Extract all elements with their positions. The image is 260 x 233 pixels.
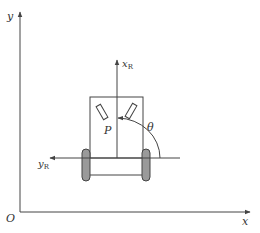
robot-y-label: yR bbox=[37, 158, 50, 171]
left-wheel-icon bbox=[82, 149, 90, 181]
theta-label: θ bbox=[147, 121, 154, 134]
robot-x-label: xR bbox=[122, 58, 134, 71]
global-y-label: y bbox=[6, 10, 14, 23]
global-axes bbox=[20, 12, 250, 212]
global-x-label: x bbox=[242, 215, 249, 228]
robot bbox=[82, 97, 150, 181]
origin-label: O bbox=[6, 212, 15, 225]
robot-kinematics-diagram: y O x xR yR P θ bbox=[0, 0, 260, 233]
theta-arc bbox=[118, 118, 160, 158]
right-wheel-icon bbox=[142, 149, 150, 181]
caster-left-icon bbox=[96, 104, 108, 119]
caster-right-icon bbox=[125, 103, 137, 118]
point-p-label: P bbox=[103, 124, 112, 137]
